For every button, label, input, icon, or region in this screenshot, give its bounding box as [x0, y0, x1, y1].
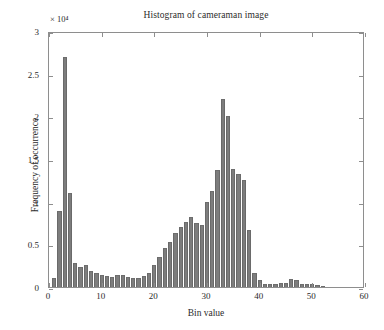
histogram-bar	[200, 225, 204, 287]
x-axis-tick-label: 60	[349, 291, 379, 301]
y-axis-tick	[359, 289, 363, 290]
histogram-bar	[210, 191, 214, 287]
histogram-bar	[115, 275, 119, 287]
x-axis-tick-label: 50	[296, 291, 326, 301]
histogram-bar	[215, 170, 219, 287]
histogram-bar	[247, 230, 251, 287]
x-axis-tick-label: 20	[138, 291, 168, 301]
y-axis-tick	[49, 118, 53, 119]
x-axis-tick	[260, 283, 261, 287]
y-axis-tick	[49, 246, 53, 247]
y-axis-tick	[359, 76, 363, 77]
x-axis-tick-label: 10	[86, 291, 116, 301]
histogram-bar	[305, 284, 309, 287]
histogram-bar	[315, 285, 319, 287]
histogram-bar	[221, 99, 225, 287]
y-axis-tick	[359, 204, 363, 205]
x-axis-tick	[49, 283, 50, 287]
histogram-bar	[173, 233, 177, 287]
x-axis-title: Bin value	[48, 308, 364, 318]
histogram-bar	[168, 242, 172, 287]
histogram-bar	[252, 273, 256, 288]
histogram-bars	[49, 33, 363, 287]
histogram-bar	[121, 275, 125, 287]
histogram-bar	[289, 279, 293, 287]
x-axis-tick	[207, 33, 208, 37]
x-axis-tick-labels: 0102030405060	[48, 291, 364, 307]
y-axis-tick	[359, 161, 363, 162]
histogram-bar	[300, 284, 304, 287]
histogram-bar	[105, 276, 109, 287]
histogram-bar	[242, 180, 246, 287]
x-axis-tick	[154, 33, 155, 37]
y-axis-title: Frequency of occurrence	[30, 75, 40, 255]
histogram-bar	[189, 217, 193, 287]
histogram-bar	[279, 283, 283, 287]
x-axis-tick-label: 40	[244, 291, 274, 301]
histogram-bar	[110, 277, 114, 287]
x-axis-tick	[49, 33, 50, 37]
x-axis-tick	[365, 33, 366, 37]
x-axis-tick	[312, 283, 313, 287]
y-axis-tick	[49, 289, 53, 290]
histogram-bar	[163, 248, 167, 287]
histogram-figure: Histogram of cameraman image × 10⁴ 00.51…	[0, 0, 384, 330]
x-axis-tick	[154, 283, 155, 287]
histogram-bar	[294, 280, 298, 287]
x-axis-tick	[102, 283, 103, 287]
histogram-bar	[78, 267, 82, 287]
histogram-bar	[52, 278, 56, 287]
histogram-bar	[226, 116, 230, 287]
y-axis-tick	[359, 118, 363, 119]
x-axis-tick	[102, 33, 103, 37]
y-axis-exponent-label: × 10⁴	[50, 14, 68, 24]
x-axis-tick-label: 0	[33, 291, 63, 301]
x-axis-tick	[365, 283, 366, 287]
histogram-bar	[84, 265, 88, 287]
histogram-bar	[94, 273, 98, 287]
plot-area	[48, 32, 364, 288]
histogram-bar	[63, 57, 67, 287]
histogram-bar	[321, 286, 325, 287]
x-axis-tick	[312, 33, 313, 37]
histogram-bar	[136, 278, 140, 287]
x-axis-tick	[207, 283, 208, 287]
histogram-bar	[205, 202, 209, 287]
histogram-bar	[157, 257, 161, 287]
y-axis-tick	[359, 33, 363, 34]
histogram-bar	[268, 284, 272, 287]
histogram-bar	[57, 211, 61, 287]
y-axis-tick	[49, 204, 53, 205]
y-axis-tick	[49, 76, 53, 77]
histogram-bar	[273, 284, 277, 287]
histogram-bar	[231, 169, 235, 287]
histogram-bar	[126, 277, 130, 287]
histogram-bar	[147, 273, 151, 287]
histogram-bar	[179, 227, 183, 287]
histogram-bar	[89, 271, 93, 287]
chart-title: Histogram of cameraman image	[48, 10, 364, 20]
histogram-bar	[236, 174, 240, 287]
histogram-bar	[73, 263, 77, 287]
histogram-bar	[131, 278, 135, 287]
histogram-bar	[184, 222, 188, 287]
histogram-bar	[263, 284, 267, 287]
x-axis-tick-label: 30	[191, 291, 221, 301]
histogram-bar	[284, 283, 288, 287]
y-axis-tick	[49, 161, 53, 162]
histogram-bar	[142, 276, 146, 287]
y-axis-tick-label: 3	[0, 27, 39, 37]
y-axis-tick	[359, 246, 363, 247]
histogram-bar	[194, 223, 198, 287]
x-axis-tick	[260, 33, 261, 37]
histogram-bar	[68, 193, 72, 287]
